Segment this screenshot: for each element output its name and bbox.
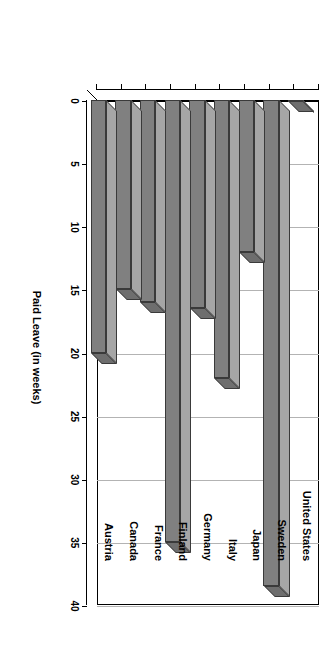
value-tick-35 — [82, 543, 87, 544]
category-label-france: France — [153, 525, 165, 561]
bar-top-face — [155, 100, 166, 313]
bar-japan[interactable] — [250, 100, 265, 252]
category-tick — [121, 84, 122, 90]
bar-top-face — [180, 100, 191, 553]
value-tick-25 — [82, 417, 87, 418]
bar-front-face — [214, 100, 229, 378]
bar-top-face — [205, 100, 216, 319]
value-axis-title: Paid Leave (in weeks) — [31, 90, 43, 605]
value-tick-label: 35 — [69, 537, 80, 548]
category-label-germany: Germany — [202, 513, 214, 561]
category-tick — [170, 84, 171, 90]
value-tick-label: 15 — [69, 285, 80, 296]
category-label-japan: Japan — [251, 529, 263, 561]
category-tick — [269, 84, 270, 90]
value-axis: 0510152025303540 — [41, 90, 87, 605]
value-tick-label: 30 — [69, 474, 80, 485]
bar-front-face — [263, 100, 278, 586]
category-tick — [318, 84, 319, 90]
bar-front-face — [140, 100, 155, 302]
category-tick — [195, 84, 196, 90]
category-label-finland: Finland — [177, 522, 189, 561]
category-axis — [87, 78, 319, 90]
bar-top-face — [106, 100, 117, 364]
value-tick-0 — [82, 101, 87, 102]
bar-italy[interactable] — [225, 100, 240, 378]
bar-united-states[interactable] — [299, 100, 314, 101]
category-label-canada: Canada — [128, 521, 140, 561]
chart-figure: 0510152025303540 Paid Leave (in weeks) U… — [0, 0, 335, 649]
value-tick-label: 10 — [69, 222, 80, 233]
chart-rotation-wrapper: 0510152025303540 Paid Leave (in weeks) U… — [0, 0, 335, 649]
value-tick-label: 40 — [69, 600, 80, 611]
value-tick-40 — [82, 606, 87, 607]
value-axis-line — [86, 100, 87, 605]
bar-front-face — [189, 100, 204, 308]
value-tick-20 — [82, 354, 87, 355]
value-tick-label: 20 — [69, 348, 80, 359]
value-tick-10 — [82, 227, 87, 228]
value-tick-5 — [82, 164, 87, 165]
category-label-united-states: United States — [301, 491, 313, 561]
bar-france[interactable] — [151, 100, 166, 302]
category-tick — [219, 84, 220, 90]
category-tick — [244, 84, 245, 90]
value-tick-15 — [82, 290, 87, 291]
bar-front-face — [115, 100, 130, 289]
bar-front-face — [91, 100, 106, 353]
category-tick — [293, 84, 294, 90]
category-label-sweden: Sweden — [276, 519, 288, 561]
bar-sweden[interactable] — [274, 100, 289, 586]
category-label-austria: Austria — [103, 523, 115, 561]
bar-finland[interactable] — [176, 100, 191, 542]
bar-germany[interactable] — [200, 100, 215, 308]
bar-canada[interactable] — [126, 100, 141, 289]
category-tick — [96, 84, 97, 90]
bar-top-face — [229, 100, 240, 389]
category-label-italy: Italy — [227, 539, 239, 561]
bar-top-face — [131, 100, 142, 300]
category-tick — [145, 84, 146, 90]
value-tick-label: 5 — [69, 161, 80, 167]
bar-top-face — [254, 100, 265, 263]
category-axis-line — [97, 89, 319, 90]
bar-front-face — [165, 100, 180, 542]
value-tick-label: 25 — [69, 411, 80, 422]
gridline-40 — [97, 606, 319, 607]
bar-front-face — [239, 100, 254, 252]
value-tick-30 — [82, 480, 87, 481]
bar-austria[interactable] — [102, 100, 117, 353]
value-tick-label: 0 — [69, 98, 80, 104]
